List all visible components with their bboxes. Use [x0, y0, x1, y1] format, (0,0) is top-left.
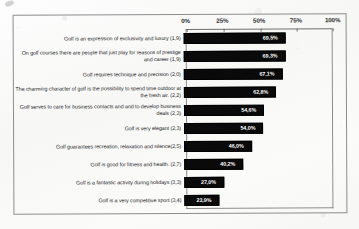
category-label: Golf is good for fitness and health. (2,… [13, 161, 184, 168]
x-axis-tick-labels: 0%25%50%75%100% [186, 16, 342, 28]
x-axis-tick-25: 25% [216, 17, 228, 24]
bar-row: Golf is good for fitness and health. (2,… [13, 154, 347, 173]
bar-row: Golf is very elegant (2,3)54,0% [13, 118, 347, 137]
bar-value-label: 69,3% [263, 53, 285, 59]
bar-cell: 69,3% [184, 46, 331, 65]
category-label: Golf is a fantastic activity during holi… [13, 179, 184, 186]
bar-row: Golf guarantees recreation, relaxation a… [13, 136, 347, 155]
x-axis-tick-0: 0% [181, 17, 190, 24]
x-axis-tick-100: 100% [325, 16, 340, 23]
bar-row: The charming character of golf is the po… [13, 82, 347, 101]
bar-cell: 54,6% [184, 100, 331, 119]
category-label: The charming character of golf is the po… [13, 85, 184, 99]
bar-cell: 62,8% [184, 82, 331, 101]
category-label: On golf courses there are people that ju… [13, 49, 184, 63]
bar-value-label: 54,0% [240, 125, 262, 131]
bar: 23,9% [184, 194, 219, 205]
bar-rows: Golf is an expression of exclusivity and… [13, 28, 348, 209]
category-label: Golf serves to care for business contact… [13, 103, 184, 117]
bar-cell: 67,1% [184, 64, 331, 83]
bar-value-label: 54,6% [241, 107, 263, 113]
bar: 67,1% [184, 68, 283, 79]
bar-value-label: 40,2% [220, 161, 242, 167]
bar-value-label: 46,0% [229, 143, 251, 149]
bar: 69,3% [184, 50, 286, 61]
bar-value-label: 69,5% [263, 35, 285, 41]
bar-cell: 54,0% [184, 118, 331, 137]
bar-row: Golf is an expression of exclusivity and… [13, 28, 347, 47]
category-label: Golf is a very competitive sport (3,4) [13, 197, 184, 204]
category-label: Golf requires technique and precision (2… [13, 71, 184, 78]
x-axis-tick-50: 50% [253, 17, 265, 24]
bar: 54,0% [184, 122, 263, 133]
bar: 27,0% [184, 176, 224, 187]
bar-value-label: 23,9% [196, 197, 218, 203]
bar-row: Golf is a very competitive sport (3,4)23… [13, 190, 347, 209]
bar-value-label: 62,8% [253, 89, 275, 95]
bar: 54,6% [184, 104, 264, 115]
bar-row: Golf serves to care for business contact… [13, 100, 347, 119]
bar-row: Golf is a fantastic activity during holi… [13, 172, 347, 191]
bar: 46,0% [184, 140, 252, 151]
bar-cell: 69,5% [184, 28, 331, 47]
category-label: Golf is very elegant (2,3) [13, 125, 184, 132]
bar: 62,8% [184, 86, 276, 97]
bar-row: On golf courses there are people that ju… [13, 46, 347, 65]
category-label: Golf guarantees recreation, relaxation a… [13, 143, 184, 150]
bar: 40,2% [184, 158, 243, 169]
bar-cell: 23,9% [184, 190, 331, 209]
category-label: Golf is an expression of exclusivity and… [13, 35, 184, 42]
bar-value-label: 27,0% [201, 179, 223, 185]
golf-attitudes-bar-chart: 0%25%50%75%100% Golf is an expression of… [13, 13, 348, 214]
x-axis-tick-75: 75% [290, 16, 302, 23]
bar-cell: 46,0% [184, 136, 331, 155]
bar-value-label: 67,1% [259, 71, 281, 77]
bar-cell: 27,0% [184, 172, 331, 191]
bar-row: Golf requires technique and precision (2… [13, 64, 347, 83]
bar: 69,5% [184, 32, 286, 43]
bar-cell: 40,2% [184, 154, 331, 173]
